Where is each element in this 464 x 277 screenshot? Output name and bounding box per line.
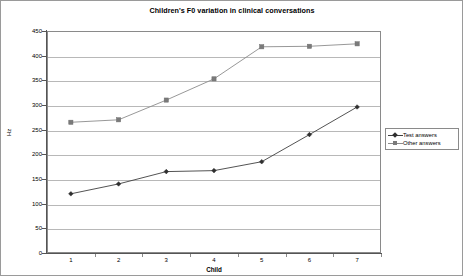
x-axis-line (46, 253, 382, 254)
gridline (48, 131, 380, 132)
legend-item-other-answers[interactable]: Other answers (388, 139, 455, 147)
x-tick-mark (381, 254, 382, 257)
y-tick-mark (42, 130, 46, 131)
legend-key-diamond-icon (388, 131, 403, 139)
x-tick-mark (286, 254, 287, 257)
gridline (48, 155, 380, 156)
x-tick-label: 7 (347, 257, 367, 263)
x-axis-title: Child (47, 266, 381, 273)
legend-label-test-answers: Test answers (403, 131, 437, 139)
y-tick-label: 350 (16, 77, 42, 83)
y-tick-mark (42, 31, 46, 32)
y-tick-label: 200 (16, 151, 42, 157)
x-tick-label: 6 (299, 257, 319, 263)
x-tick-mark (142, 254, 143, 257)
x-tick-label: 5 (252, 257, 272, 263)
x-tick-mark (95, 254, 96, 257)
chart-legend: Test answers Other answers (385, 128, 459, 150)
y-tick-label: 100 (16, 201, 42, 207)
gridline (48, 57, 380, 58)
x-tick-mark (190, 254, 191, 257)
y-tick-mark (42, 105, 46, 106)
y-tick-label: 0 (16, 250, 42, 256)
x-tick-label: 4 (204, 257, 224, 263)
x-tick-label: 1 (61, 257, 81, 263)
x-tick-mark (238, 254, 239, 257)
legend-key-square-icon (388, 139, 403, 147)
y-tick-label: 400 (16, 53, 42, 59)
y-tick-mark (42, 228, 46, 229)
legend-label-other-answers: Other answers (403, 139, 441, 147)
x-tick-mark (333, 254, 334, 257)
y-tick-label: 150 (16, 176, 42, 182)
y-tick-mark (42, 179, 46, 180)
y-tick-label: 50 (16, 225, 42, 231)
y-axis-title: Hz (6, 129, 12, 136)
gridline (48, 229, 380, 230)
gridline (48, 81, 380, 82)
chart-title: Children's F0 variation in clinical conv… (0, 6, 464, 15)
gridline (48, 106, 380, 107)
gridline (48, 205, 380, 206)
y-tick-mark (42, 56, 46, 57)
y-tick-mark (42, 253, 46, 254)
y-tick-mark (42, 204, 46, 205)
gridline (48, 180, 380, 181)
chart-screenshot: Children's F0 variation in clinical conv… (0, 0, 464, 277)
y-tick-label: 300 (16, 102, 42, 108)
y-tick-label: 250 (16, 127, 42, 133)
plot-area (47, 31, 381, 253)
x-tick-label: 3 (156, 257, 176, 263)
x-tick-label: 2 (109, 257, 129, 263)
y-axis-line (46, 30, 47, 254)
y-tick-mark (42, 154, 46, 155)
y-tick-mark (42, 80, 46, 81)
legend-item-test-answers[interactable]: Test answers (388, 131, 455, 139)
y-tick-label: 450 (16, 28, 42, 34)
